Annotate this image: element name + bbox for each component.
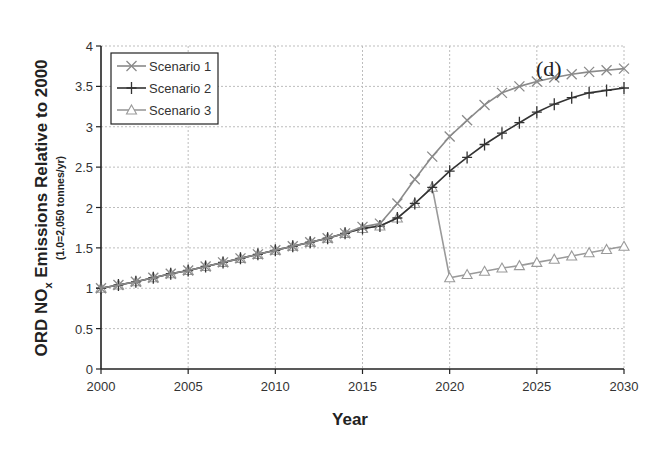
x-marker	[427, 152, 437, 162]
plus-marker	[462, 151, 472, 163]
y-tick-label: 4	[86, 39, 93, 54]
x-marker	[392, 198, 402, 208]
y-axis-note: (1.0=2,050 tonnes/yr)	[54, 156, 66, 260]
svg-text:(1.0=2,050 tonnes/yr): (1.0=2,050 tonnes/yr)	[54, 156, 66, 260]
legend: Scenario 1Scenario 2Scenario 3	[111, 53, 218, 124]
y-tick-label: 2.5	[75, 160, 93, 175]
x-tick-label: 2015	[348, 379, 377, 394]
x-tick-label: 2030	[610, 379, 639, 394]
y-axis-title-rest: Emissions Relative to 2000	[32, 59, 51, 282]
x-tick-label: 2000	[87, 379, 116, 394]
legend-item: Scenario 2	[117, 81, 211, 96]
svg-text:ORD NOx Emissions Relative to: ORD NOx Emissions Relative to 2000	[32, 59, 54, 356]
plus-marker	[619, 82, 629, 94]
x-tick-label: 2025	[522, 379, 551, 394]
x-marker	[480, 100, 490, 110]
x-tick-label: 2020	[435, 379, 464, 394]
y-tick-label: 3	[86, 120, 93, 135]
y-tick-label: 1	[86, 281, 93, 296]
y-tick-label: 3.5	[75, 79, 93, 94]
x-tick-label: 2010	[261, 379, 290, 394]
y-axis-title: ORD NOx Emissions Relative to 2000	[32, 59, 54, 356]
plus-marker	[532, 106, 542, 118]
legend-label: Scenario 1	[149, 59, 211, 74]
emissions-line-chart: 00.511.522.533.54 2000200520102015202020…	[0, 0, 660, 450]
y-tick-label: 1.5	[75, 241, 93, 256]
plus-marker	[497, 127, 507, 139]
legend-label: Scenario 2	[149, 81, 211, 96]
x-marker	[410, 174, 420, 184]
y-tick-label: 0	[86, 362, 93, 377]
plus-marker	[480, 139, 490, 151]
y-tick-label: 2	[86, 201, 93, 216]
x-tick-label: 2005	[174, 379, 203, 394]
x-axis-ticks: 2000200520102015202020252030	[87, 369, 639, 394]
triangle-marker	[619, 241, 629, 250]
panel-label: (d)	[536, 56, 562, 81]
legend-label: Scenario 3	[149, 103, 211, 118]
plus-marker	[584, 87, 594, 99]
x-marker	[497, 88, 507, 98]
x-axis-title: Year	[332, 410, 368, 429]
y-axis-title-main: ORD NO	[32, 289, 51, 357]
plus-marker	[549, 98, 559, 110]
y-tick-label: 0.5	[75, 322, 93, 337]
y-axis-ticks: 00.511.522.533.54	[75, 39, 101, 377]
x-marker	[462, 115, 472, 125]
plus-marker	[567, 92, 577, 104]
